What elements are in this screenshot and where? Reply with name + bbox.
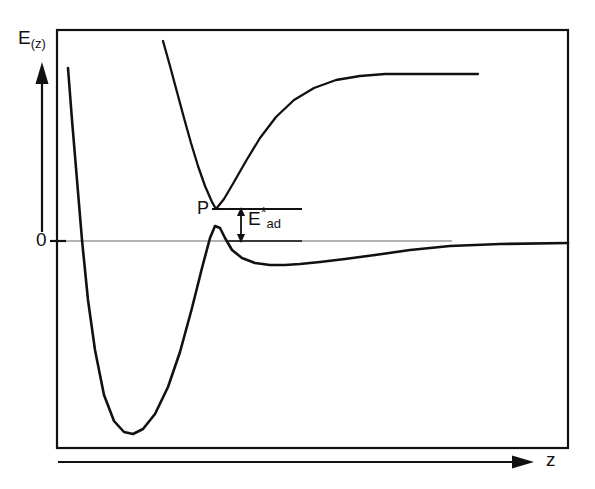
plot-frame bbox=[57, 30, 568, 448]
activation-energy-subscript: ad bbox=[267, 216, 281, 231]
energy-axis-arrowhead bbox=[36, 62, 49, 84]
potential-energy-diagram bbox=[0, 0, 595, 489]
crossing-point-label: P bbox=[197, 199, 209, 217]
physisorption-curve bbox=[68, 68, 568, 434]
chemisorption-curve bbox=[163, 41, 478, 209]
distance-axis-label: z bbox=[546, 450, 556, 469]
activation-energy-label: E*ad bbox=[248, 204, 281, 230]
distance-axis-arrowhead bbox=[512, 456, 534, 469]
energy-axis-label: E(z) bbox=[18, 28, 46, 50]
zero-level-label: 0 bbox=[36, 230, 47, 249]
